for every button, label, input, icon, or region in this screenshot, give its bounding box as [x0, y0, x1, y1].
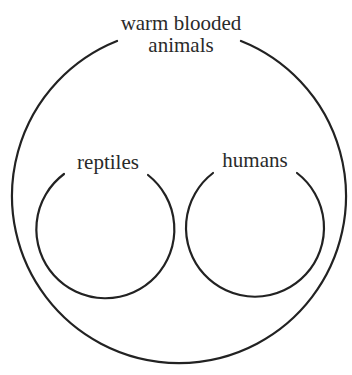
outer-circle-warm-blooded-animals — [12, 41, 346, 363]
inner-circle-reptiles — [36, 174, 174, 298]
outer-set-label: warm blooded animals — [96, 12, 266, 56]
diagram-canvas: warm blooded animals reptiles humans — [0, 0, 352, 375]
inner-circle-humans — [186, 173, 324, 297]
outer-set-label-line1: warm blooded — [96, 12, 266, 34]
outer-set-label-line2: animals — [96, 34, 266, 56]
humans-label: humans — [214, 150, 296, 171]
reptiles-label: reptiles — [68, 152, 148, 173]
